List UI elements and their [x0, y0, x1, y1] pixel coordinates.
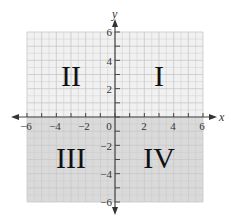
x-tick-label: −6	[20, 120, 32, 132]
y-axis-down-arrow-icon	[112, 207, 118, 215]
quadrant-label-iv: IV	[143, 141, 175, 174]
coordinate-plane: x y −6 −4 −2 0 2 4 6 6 4 2 −2 −4 −6 I II…	[0, 0, 231, 218]
x-tick-label: 6	[199, 120, 205, 132]
x-tick-label: 4	[170, 120, 176, 132]
y-tick-label: −2	[100, 140, 112, 152]
x-axis-name: x	[218, 110, 225, 124]
y-axis-name: y	[111, 7, 118, 21]
y-tick-label: 2	[107, 83, 113, 95]
y-tick-label: −4	[100, 168, 112, 180]
x-tick-label: 0	[106, 120, 112, 132]
y-tick-label: 4	[107, 55, 113, 67]
quadrant-label-iii: III	[56, 141, 86, 174]
x-tick-label: −4	[49, 120, 61, 132]
quadrant-label-ii: II	[61, 59, 81, 92]
x-tick-label: 2	[141, 120, 147, 132]
x-axis-left-arrow-icon	[11, 114, 19, 120]
quadrant-label-i: I	[154, 59, 164, 92]
x-axis-right-arrow-icon	[209, 114, 217, 120]
y-tick-label: −6	[100, 196, 112, 208]
y-tick-label: 6	[107, 26, 113, 38]
x-tick-label: −2	[78, 120, 90, 132]
